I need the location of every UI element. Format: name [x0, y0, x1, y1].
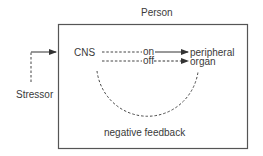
negative-feedback-label: negative feedback — [104, 127, 185, 138]
organ-label: organ — [190, 56, 216, 67]
off-label: off — [143, 55, 154, 66]
person-label: Person — [141, 7, 173, 18]
cns-label: CNS — [74, 47, 95, 58]
stressor-label: Stressor — [16, 89, 53, 100]
negative-feedback-arc — [97, 71, 198, 116]
